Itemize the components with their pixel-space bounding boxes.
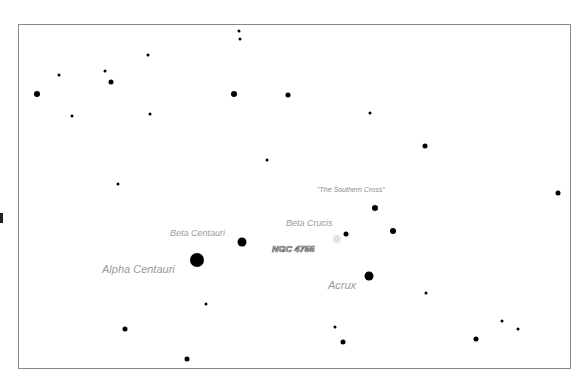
star	[205, 303, 208, 306]
star	[334, 326, 337, 329]
star	[369, 112, 372, 115]
star	[58, 74, 61, 77]
label-ngc-4755: NGC 4755	[272, 245, 315, 254]
star	[474, 337, 479, 342]
star	[501, 320, 504, 323]
label-southern-cross: "The Southern Cross"	[317, 186, 385, 193]
star	[147, 54, 150, 57]
label-beta-crucis: Beta Crucis	[286, 219, 333, 228]
star	[517, 328, 520, 331]
star	[123, 327, 128, 332]
label-alpha-centauri: Alpha Centauri	[102, 264, 175, 275]
star	[231, 91, 237, 97]
star	[149, 113, 152, 116]
star-chart: "The Southern Cross" Beta Crucis Beta Ce…	[0, 0, 586, 391]
cluster-ngc-4755	[333, 235, 341, 243]
star	[390, 228, 396, 234]
star	[104, 70, 107, 73]
cropped-edge-glyph	[0, 213, 3, 223]
star	[425, 292, 428, 295]
label-acrux: Acrux	[328, 280, 356, 291]
star	[185, 357, 190, 362]
label-beta-centauri: Beta Centauri	[170, 229, 225, 238]
star	[286, 93, 291, 98]
star-acrux	[365, 272, 374, 281]
star	[109, 80, 114, 85]
star	[239, 38, 242, 41]
star-alpha-centauri	[190, 253, 204, 267]
star	[71, 115, 74, 118]
star	[372, 205, 378, 211]
star	[341, 340, 346, 345]
star	[34, 91, 40, 97]
star-beta-centauri	[238, 238, 247, 247]
star	[266, 159, 269, 162]
star	[117, 183, 120, 186]
chart-frame	[18, 24, 571, 369]
star	[556, 191, 561, 196]
star-beta-crucis	[344, 232, 349, 237]
star	[238, 30, 241, 33]
star	[423, 144, 428, 149]
